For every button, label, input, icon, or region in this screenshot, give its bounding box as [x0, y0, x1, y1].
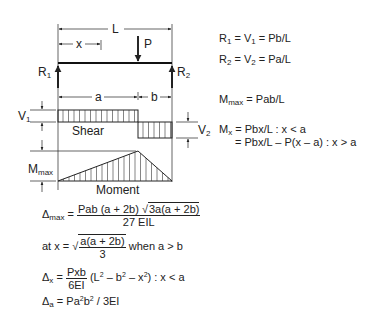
x-label: x	[76, 38, 82, 50]
v1-label: V1	[18, 110, 30, 126]
shear-label: Shear	[72, 125, 104, 137]
formula-deflection-max: Δmax = Pab (a + 2b) √3a(a + 2b)27 EIL	[42, 203, 200, 228]
mmax-label: Mmax	[28, 163, 53, 179]
span-label: L	[112, 23, 119, 35]
load-label: P	[144, 38, 152, 50]
r2-label: R2	[177, 66, 190, 82]
formula-r1: R1 = V1 = Pb/L	[219, 32, 291, 48]
extension-lines	[30, 24, 198, 190]
formula-deflection-a: Δa = Pa2b2 / 3EI	[42, 293, 119, 311]
a-label: a	[95, 91, 102, 103]
v2-label: V2	[198, 124, 210, 140]
moment-label: Moment	[96, 184, 139, 196]
r1-label: R1	[38, 66, 51, 82]
formula-at-x: at x = √a(a + 2b)3 when a > b	[42, 234, 183, 260]
formula-mx-2: = Pbx/L – P(x – a) : x > a	[235, 136, 356, 148]
formula-deflection-x: Δx = Pxb6EI (L2 – b2 – x2) : x < a	[42, 266, 185, 291]
formula-mmax: Mmax = Pab/L	[219, 93, 285, 109]
b-label: b	[151, 91, 158, 103]
formula-r2: R2 = V2 = Pa/L	[219, 53, 291, 69]
moment-diagram	[58, 151, 172, 181]
